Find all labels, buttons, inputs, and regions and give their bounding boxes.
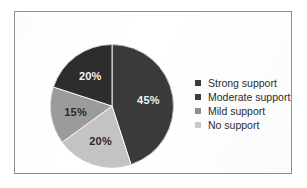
legend-swatch-no-support [195,122,201,128]
pie-chart-svg: 45%20%15%20% [50,44,174,168]
pie-slice-value-label: 45% [137,94,160,106]
figure-frame: 45%20%15%20% Strong support Moderate sup… [14,11,292,174]
legend-label-no-support: No support [208,118,259,132]
legend-swatch-moderate-support [195,94,201,100]
legend-label-strong-support: Strong support [208,76,277,90]
legend-label-mild-support: Mild support [208,104,265,118]
legend-swatch-strong-support [195,80,201,86]
pie-chart: 45%20%15%20% [50,44,174,168]
legend-item-strong-support[interactable]: Strong support [195,76,299,90]
pie-slice-value-label: 20% [79,70,102,82]
legend-item-no-support[interactable]: No support [195,118,299,132]
legend-item-mild-support[interactable]: Mild support [195,104,299,118]
legend-label-moderate-support: Moderate support [208,90,290,104]
pie-slice-value-label: 20% [89,135,112,147]
legend-item-moderate-support[interactable]: Moderate support [195,90,299,104]
pie-slice-value-label: 15% [64,106,87,118]
legend-swatch-mild-support [195,108,201,114]
chart-legend: Strong support Moderate support Mild sup… [195,76,299,132]
